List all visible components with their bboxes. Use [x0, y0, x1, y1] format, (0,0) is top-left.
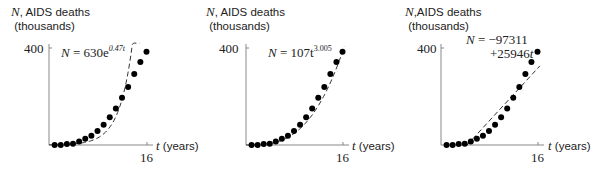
data-point — [333, 59, 339, 65]
x-axis-title: (years) — [356, 140, 395, 152]
data-point — [327, 71, 333, 77]
data-point — [273, 139, 279, 145]
data-point — [125, 84, 131, 90]
data-point — [309, 105, 315, 111]
data-point — [510, 95, 516, 101]
x-axis-title: (years) — [552, 140, 591, 152]
data-point — [297, 122, 303, 128]
data-point — [303, 114, 309, 120]
data-point — [492, 122, 498, 128]
data-point — [456, 141, 462, 147]
data-point — [498, 114, 504, 120]
data-point — [468, 139, 474, 145]
data-point — [70, 141, 76, 147]
data-point — [480, 133, 486, 139]
data-point — [474, 136, 480, 142]
data-point — [315, 95, 321, 101]
data-point — [64, 141, 70, 147]
data-point — [119, 95, 125, 101]
data-point — [52, 142, 58, 148]
data-point — [137, 59, 143, 65]
data-point — [101, 122, 107, 128]
data-point — [291, 128, 297, 134]
data-point — [462, 141, 468, 147]
data-point — [107, 114, 113, 120]
data-point — [340, 49, 346, 55]
x-axis-title: (years) — [160, 140, 199, 152]
chart-panel-power: N, AIDS deaths (thousands) 400 N = 107t3… — [197, 0, 397, 169]
chart-panel-exponential: N, AIDS deaths (thousands) 400 N = 630e0… — [0, 0, 200, 169]
data-point — [82, 136, 88, 142]
data-point — [88, 133, 94, 139]
data-point — [76, 139, 82, 145]
data-point — [58, 142, 64, 148]
data-point — [504, 105, 510, 111]
x-axis-label: t (years) — [156, 138, 199, 154]
data-point — [255, 142, 261, 148]
data-point — [267, 141, 273, 147]
fit-curve — [467, 66, 540, 145]
data-point — [279, 136, 285, 142]
x-tick-16: 16 — [531, 150, 544, 166]
chart-panel-linear: N,AIDS deaths (thousands) 400 N = −97311… — [393, 0, 593, 169]
data-point — [144, 49, 150, 55]
data-point — [95, 128, 101, 134]
x-axis-label: t (years) — [352, 138, 395, 154]
data-point — [516, 84, 522, 90]
data-point — [285, 133, 291, 139]
data-point — [261, 141, 267, 147]
data-point — [249, 142, 255, 148]
data-point — [450, 142, 456, 148]
data-point — [444, 142, 450, 148]
data-point — [528, 59, 534, 65]
x-tick-16: 16 — [140, 150, 153, 166]
data-point — [486, 128, 492, 134]
data-point — [131, 71, 137, 77]
data-point — [113, 105, 119, 111]
data-point — [535, 49, 541, 55]
fit-curve — [49, 43, 140, 145]
data-point — [321, 84, 327, 90]
data-point — [522, 71, 528, 77]
x-tick-16: 16 — [336, 150, 349, 166]
x-axis-label: t (years) — [548, 138, 591, 154]
